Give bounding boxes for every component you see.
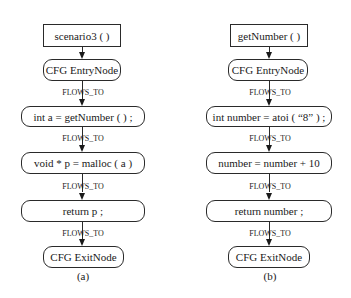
cfg-statement-node: int a = getNumber ( ) ; [21,106,145,127]
cfg-exit-node: CFG ExitNode [43,246,124,268]
cfg-entry-node: CFG EntryNode [43,59,121,81]
arrow-down-icon [79,52,85,59]
figure-caption: (a) [77,270,89,282]
cfg-statement-node: int number = atoi ( “8” ) ; [206,106,332,127]
arrow-down-icon [266,239,272,246]
arrow-down-icon [79,99,85,106]
edge-label: FLOWS_TO [62,134,104,143]
function-title-node: scenario3 ( ) [43,24,121,47]
edge-label: FLOWS_TO [62,229,104,238]
arrow-down-icon [266,193,272,200]
edge-label: FLOWS_TO [249,229,291,238]
arrow-down-icon [79,145,85,152]
arrow-down-icon [79,193,85,200]
arrow-down-icon [266,52,272,59]
cfg-exit-node: CFG ExitNode [228,246,310,268]
edge-label: FLOWS_TO [62,182,104,191]
arrow-down-icon [266,145,272,152]
arrow-down-icon [266,99,272,106]
edge-label: FLOWS_TO [249,88,291,97]
cfg-statement-node: return number ; [206,200,332,222]
edge-label: FLOWS_TO [249,134,291,143]
function-title-node: getNumber ( ) [230,24,308,47]
cfg-statement-node: return p ; [21,200,145,222]
edge-label: FLOWS_TO [249,182,291,191]
figure-caption: (b) [264,270,277,282]
arrow-down-icon [79,239,85,246]
cfg-statement-node: void * p = malloc ( a ) [21,152,145,174]
cfg-entry-node: CFG EntryNode [228,59,308,81]
cfg-statement-node: number = number + 10 [206,152,332,174]
edge-label: FLOWS_TO [62,88,104,97]
